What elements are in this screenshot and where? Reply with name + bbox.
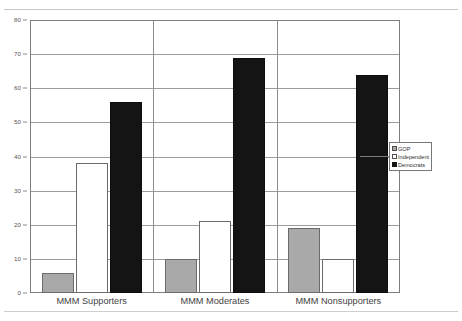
y-tick-label: 20 [14, 222, 21, 228]
bar-gop-0 [42, 273, 74, 293]
bar-independent-2 [322, 259, 354, 293]
y-tick-mark [23, 190, 27, 191]
legend-swatch-icon [392, 162, 397, 167]
legend-label: Democrats [398, 162, 425, 168]
bar-groups [30, 20, 400, 293]
y-tick-label: 10 [14, 256, 21, 262]
legend-label: GOP [398, 146, 410, 152]
legend-item: GOP [392, 145, 430, 153]
y-tick-mark [23, 258, 27, 259]
bar-independent-0 [76, 163, 108, 293]
legend-item: Democrats [392, 161, 430, 169]
y-tick-label: 80 [14, 17, 21, 23]
category-label: MMM Supporters [56, 296, 126, 307]
y-tick-label: 70 [14, 51, 21, 57]
y-tick-label: 30 [14, 188, 21, 194]
legend-item: Independent [392, 153, 430, 161]
x-axis-category-labels: MMM SupportersMMM ModeratesMMM Nonsuppor… [30, 296, 400, 312]
legend-swatch-icon [392, 146, 397, 151]
y-tick-mark [23, 20, 27, 21]
chart-legend: GOPIndependentDemocrats [389, 142, 432, 171]
y-tick-label: 0 [18, 290, 21, 296]
bar-democrats-1 [233, 58, 265, 293]
plot-area [30, 20, 400, 293]
y-tick-label: 50 [14, 119, 21, 125]
category-label: MMM Moderates [181, 296, 250, 307]
legend-leader-line [360, 156, 389, 157]
bar-independent-1 [199, 221, 231, 293]
y-axis-tick-labels: 80706050403020100 [0, 0, 30, 321]
y-tick-mark [23, 88, 27, 89]
bar-gop-1 [165, 259, 197, 293]
y-tick-label: 40 [14, 153, 21, 159]
y-tick-mark [23, 293, 27, 294]
bar-democrats-0 [110, 102, 142, 293]
bar-group [153, 20, 276, 293]
y-tick-mark [23, 122, 27, 123]
y-tick-mark [23, 54, 27, 55]
legend-label: Independent [398, 154, 429, 160]
bar-democrats-2 [356, 75, 388, 293]
chart-page: 80706050403020100 MMM SupportersMMM Mode… [0, 0, 462, 321]
legend-swatch-icon [392, 154, 397, 159]
bar-chart: 80706050403020100 MMM SupportersMMM Mode… [0, 0, 462, 321]
y-tick-mark [23, 224, 27, 225]
y-tick-label: 60 [14, 85, 21, 91]
y-tick-mark [23, 156, 27, 157]
bar-group [30, 20, 153, 293]
category-label: MMM Nonsupporters [295, 296, 381, 307]
bar-gop-2 [288, 228, 320, 293]
